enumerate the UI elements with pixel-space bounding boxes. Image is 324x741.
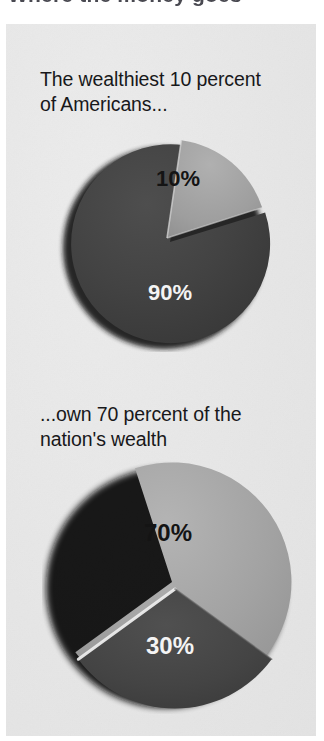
caption-second: ...own 70 percent of the nation's wealth <box>40 402 310 452</box>
caption-first: The wealthiest 10 percent of Americans..… <box>40 67 310 117</box>
pie-chart-population: 10% 90% <box>54 132 284 352</box>
pie-label-30: 30% <box>146 632 194 659</box>
headline-clip: Where the money goes <box>0 0 324 11</box>
pie-label-10: 10% <box>156 166 200 191</box>
page-headline: Where the money goes <box>8 0 242 7</box>
figure-panel: The wealthiest 10 percent of Americans..… <box>6 24 316 736</box>
pie-chart-wealth: 70% 30% <box>42 452 298 714</box>
pie-label-90: 90% <box>148 280 192 305</box>
pie-label-70: 70% <box>144 519 192 546</box>
